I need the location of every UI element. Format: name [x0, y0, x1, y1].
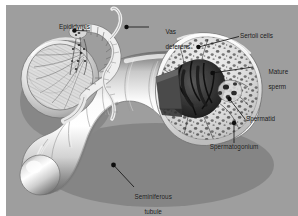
dot-spermatid — [227, 97, 231, 101]
label-sertoli-cells: Sertoli cells — [240, 32, 273, 40]
label-vas-deferens: Vas deferens — [151, 20, 190, 58]
dot-spermatogonium — [232, 121, 236, 125]
illustration-plate: Epididymis Vas deferens Sertoli cells Ma… — [6, 5, 298, 216]
dot-sertoli-cells — [196, 45, 200, 49]
label-mature-sperm-line1: Mature — [268, 68, 288, 75]
label-seminiferous-tubule-line1: Seminiferous — [135, 193, 172, 200]
label-mature-sperm-line2: sperm — [268, 83, 286, 90]
anatomy-figure: Epididymis Vas deferens Sertoli cells Ma… — [0, 0, 298, 216]
label-spermatid: Spermatid — [246, 115, 275, 123]
label-vas-deferens-line1: Vas — [165, 28, 176, 35]
label-mature-sperm: Mature sperm — [254, 60, 288, 98]
label-vas-deferens-line2: deferens — [165, 43, 190, 50]
dot-mature-sperm — [210, 71, 214, 75]
dot-seminiferous-tubule — [111, 163, 116, 168]
label-spermatogonium: Spermatogonium — [192, 143, 276, 151]
artboard: Epididymis Vas deferens Sertoli cells Ma… — [6, 5, 298, 216]
tubule-free-end — [20, 155, 60, 195]
dot-vas-deferens — [124, 25, 128, 29]
label-epididymis: Epididymis — [14, 23, 90, 31]
label-seminiferous-tubule-line2: tubule — [144, 208, 161, 215]
label-seminiferous-tubule: Seminiferous tubule — [114, 185, 178, 216]
